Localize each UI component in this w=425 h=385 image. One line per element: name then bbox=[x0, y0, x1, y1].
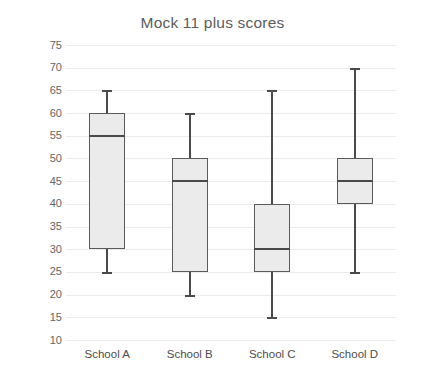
box-iqr bbox=[89, 113, 125, 249]
median-line bbox=[172, 180, 208, 182]
median-line bbox=[337, 180, 373, 182]
x-axis-tick-label: School A bbox=[85, 348, 130, 360]
y-axis-tick-label: 50 bbox=[36, 153, 62, 164]
x-axis-tick-labels: School ASchool BSchool CSchool D bbox=[66, 348, 396, 368]
upper-whisker-cap bbox=[350, 68, 360, 70]
y-axis-tick-label: 70 bbox=[36, 62, 62, 73]
y-axis-tick-label: 25 bbox=[36, 266, 62, 277]
gridline bbox=[66, 340, 396, 341]
median-line bbox=[89, 135, 125, 137]
plot-area bbox=[66, 45, 396, 340]
y-axis-tick-label: 20 bbox=[36, 289, 62, 300]
y-axis-tick-label: 65 bbox=[36, 85, 62, 96]
box-plot-series bbox=[172, 45, 208, 340]
y-axis-tick-labels: 7570656055504540353025201510 bbox=[34, 45, 62, 340]
y-axis-tick-label: 40 bbox=[36, 198, 62, 209]
upper-whisker bbox=[271, 90, 273, 203]
lower-whisker bbox=[106, 249, 108, 272]
y-axis-tick-label: 75 bbox=[36, 40, 62, 51]
x-axis-tick-label: School D bbox=[331, 348, 378, 360]
upper-whisker bbox=[189, 113, 191, 158]
median-line bbox=[254, 248, 290, 250]
y-axis-tick-label: 60 bbox=[36, 108, 62, 119]
lower-whisker-cap bbox=[267, 317, 277, 319]
box-plot-series bbox=[337, 45, 373, 340]
y-axis-tick-label: 55 bbox=[36, 130, 62, 141]
y-axis-tick-label: 15 bbox=[36, 312, 62, 323]
lower-whisker-cap bbox=[102, 272, 112, 274]
x-axis-tick-label: School C bbox=[249, 348, 296, 360]
lower-whisker bbox=[271, 272, 273, 317]
y-axis-tick-label: 35 bbox=[36, 221, 62, 232]
box-iqr bbox=[172, 158, 208, 271]
upper-whisker-cap bbox=[185, 113, 195, 115]
x-axis-tick-label: School B bbox=[167, 348, 213, 360]
y-axis-tick-label: 30 bbox=[36, 244, 62, 255]
lower-whisker bbox=[354, 204, 356, 272]
upper-whisker-cap bbox=[267, 90, 277, 92]
y-axis-tick-label: 45 bbox=[36, 176, 62, 187]
lower-whisker-cap bbox=[185, 295, 195, 297]
box-iqr bbox=[254, 204, 290, 272]
upper-whisker-cap bbox=[102, 90, 112, 92]
y-axis-tick-label: 10 bbox=[36, 335, 62, 346]
box-plot-series bbox=[254, 45, 290, 340]
chart-title: Mock 11 plus scores bbox=[0, 14, 425, 32]
box-plot-chart: Mock 11 plus scores Test score % 7570656… bbox=[0, 0, 425, 385]
upper-whisker bbox=[106, 90, 108, 113]
lower-whisker-cap bbox=[350, 272, 360, 274]
lower-whisker bbox=[189, 272, 191, 295]
box-plot-series bbox=[89, 45, 125, 340]
upper-whisker bbox=[354, 68, 356, 159]
